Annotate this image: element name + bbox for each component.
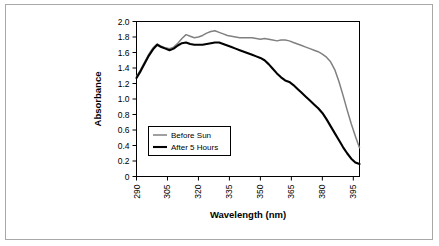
x-tick-label: 380 [317, 184, 327, 198]
y-axis-tick-labels: 00.20.40.60.81.01.21.41.61.82.0 [118, 17, 130, 182]
y-tick-label: 0.4 [118, 141, 130, 151]
x-tick-label: 290 [132, 184, 142, 198]
chart-legend[interactable]: Before SunAfter 5 Hours [149, 127, 231, 156]
y-tick-label: 1.2 [118, 79, 130, 89]
x-tick-label: 320 [193, 184, 203, 198]
x-tick-label: 365 [286, 184, 296, 198]
y-axis-ticks [133, 22, 137, 177]
y-tick-label: 1.8 [118, 32, 130, 42]
x-tick-label: 335 [224, 184, 234, 198]
x-tick-label: 350 [255, 184, 265, 198]
chart-canvas: 00.20.40.60.81.01.21.41.61.82.0 29030532… [0, 0, 439, 246]
x-tick-label: 305 [162, 184, 172, 198]
y-tick-label: 0.2 [118, 156, 130, 166]
y-tick-label: 1.0 [118, 94, 130, 104]
x-axis-tick-labels: 290305320335350365380395 [132, 184, 359, 198]
y-tick-label: 1.4 [118, 63, 130, 73]
legend-label: Before Sun [171, 131, 211, 140]
x-tick-label: 395 [348, 184, 358, 198]
x-axis-ticks [137, 177, 354, 181]
y-tick-label: 0 [125, 172, 130, 182]
y-tick-label: 0.6 [118, 125, 130, 135]
chart-screenshot: 00.20.40.60.81.01.21.41.61.82.0 29030532… [0, 0, 439, 246]
x-axis-title: Wavelength (nm) [210, 209, 286, 220]
y-tick-label: 0.8 [118, 110, 130, 120]
y-tick-label: 2.0 [118, 17, 130, 27]
y-tick-label: 1.6 [118, 48, 130, 58]
absorbance-spectrum-chart: 00.20.40.60.81.01.21.41.61.82.0 29030532… [0, 0, 439, 246]
legend-label: After 5 Hours [171, 143, 218, 152]
y-axis-title: Absorbance [92, 72, 103, 127]
